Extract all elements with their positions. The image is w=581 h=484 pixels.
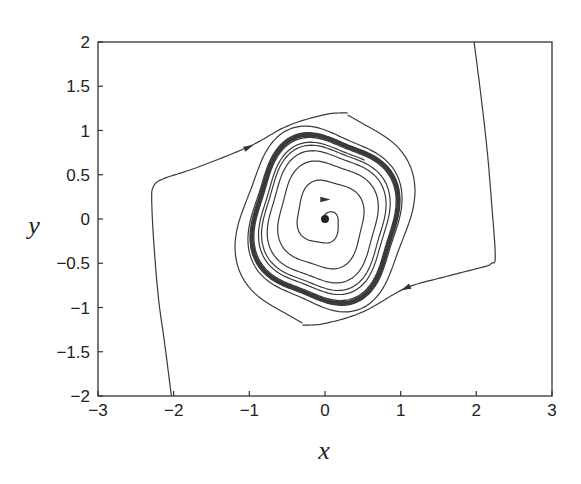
direction-arrow-icon <box>320 197 330 203</box>
x-tick-label: −3 <box>88 401 107 420</box>
x-tick-label: −2 <box>164 401 183 420</box>
y-tick-label: 0.5 <box>66 166 90 185</box>
y-tick-label: −2 <box>71 387 90 406</box>
y-tick-label: −0.5 <box>56 254 90 273</box>
direction-arrow-icon <box>243 145 253 152</box>
y-tick-label: 1.5 <box>66 77 90 96</box>
x-tick-label: 3 <box>547 401 556 420</box>
axis-ticks: −3−2−10123−2−1.5−1−0.500.511.52 <box>56 33 556 420</box>
x-tick-label: 2 <box>472 401 481 420</box>
y-tick-label: −1.5 <box>56 343 90 362</box>
x-tick-label: 0 <box>320 401 329 420</box>
trajectories <box>152 42 496 396</box>
y-tick-label: 1 <box>81 122 90 141</box>
x-tick-label: 1 <box>396 401 405 420</box>
equilibrium-point <box>321 215 329 223</box>
y-tick-label: −1 <box>71 299 90 318</box>
direction-arrow-icon <box>401 284 411 291</box>
y-tick-label: 2 <box>81 33 90 52</box>
y-axis-label: y <box>25 211 40 240</box>
phase-portrait-chart: −3−2−10123−2−1.5−1−0.500.511.52 x y <box>0 0 581 484</box>
x-tick-label: −1 <box>240 401 259 420</box>
y-tick-label: 0 <box>81 210 90 229</box>
x-axis-label: x <box>317 436 330 465</box>
